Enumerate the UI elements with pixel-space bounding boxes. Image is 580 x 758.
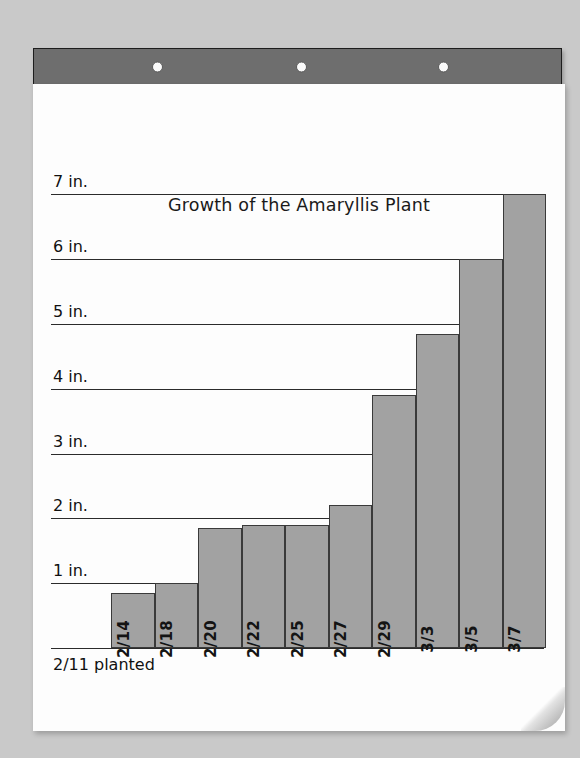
- bar: 2/27: [329, 505, 373, 648]
- clipboard-hole-icon: [296, 61, 307, 72]
- bar-category-label: 2/14: [115, 620, 133, 658]
- planted-annotation: 2/11 planted: [53, 655, 155, 674]
- bar: 2/14: [111, 593, 155, 648]
- bar-category-label: 3/3: [419, 625, 437, 652]
- bar-chart: 1 in.2 in.3 in.4 in.5 in.6 in.7 in. 2/14…: [33, 84, 565, 731]
- bar-category-label: 2/29: [376, 620, 394, 658]
- bar-category-label: 2/20: [202, 620, 220, 658]
- clipboard-hole-icon: [152, 61, 163, 72]
- clipboard-hole-icon: [438, 61, 449, 72]
- bar: 3/5: [459, 259, 503, 648]
- bar: 2/18: [155, 583, 199, 648]
- bar: 2/20: [198, 528, 242, 648]
- clipboard-bar: [33, 48, 562, 85]
- bar: 2/29: [372, 395, 416, 648]
- bar: 2/22: [242, 525, 286, 648]
- bar-category-label: 2/22: [245, 620, 263, 658]
- bar-category-label: 2/18: [158, 620, 176, 658]
- bar-category-label: 2/27: [332, 620, 350, 658]
- bar-category-label: 3/7: [506, 625, 524, 652]
- bar-group: 2/142/182/202/222/252/272/293/33/53/7: [33, 84, 565, 731]
- paper-sheet: Growth of the Amaryllis Plant 1 in.2 in.…: [33, 84, 565, 731]
- bar: 2/25: [285, 525, 329, 648]
- bar: 3/3: [416, 334, 460, 648]
- bar: 3/7: [503, 194, 547, 648]
- bar-category-label: 2/25: [289, 620, 307, 658]
- bar-category-label: 3/5: [463, 625, 481, 652]
